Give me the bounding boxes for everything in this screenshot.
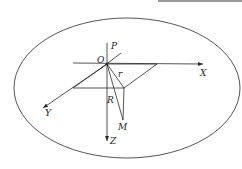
label-small-r: r <box>118 69 123 79</box>
x-axis <box>73 63 203 64</box>
label-p: P <box>110 41 118 51</box>
label-m: M <box>117 122 128 132</box>
label-z: Z <box>109 136 117 146</box>
m-vertical <box>123 88 124 120</box>
top-edge-bar <box>158 0 242 2</box>
horizontal-plane <box>73 64 157 88</box>
y-axis <box>43 64 107 108</box>
label-o: O <box>97 55 105 65</box>
boundary-ellipse <box>14 18 240 158</box>
origin-point <box>106 63 109 66</box>
coordinate-diagram: O P X Y Z M r R <box>0 0 242 169</box>
label-x: X <box>199 68 207 78</box>
label-y: Y <box>45 108 52 118</box>
label-big-r: R <box>106 95 114 105</box>
